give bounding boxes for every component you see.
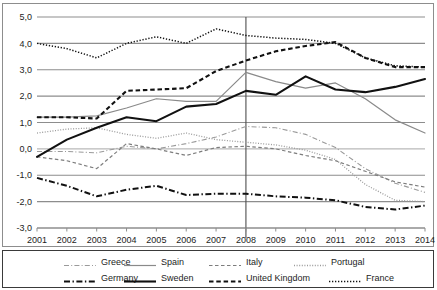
legend-swatch-icon [293, 257, 327, 268]
legend-swatch-icon [123, 273, 157, 284]
x-axis-tick-label: 2004 [117, 235, 137, 245]
x-axis-tick-label: 2007 [206, 235, 226, 245]
legend-item-label: United Kingdom [246, 273, 310, 284]
legend-swatch-icon [328, 273, 362, 284]
series-line-greece [37, 126, 425, 192]
legend-item-sweden[interactable]: Sweden [123, 271, 194, 286]
y-axis-tick-label: 3,0 [19, 65, 32, 75]
x-axis-tick-label: 2009 [266, 235, 286, 245]
series-line-italy [37, 144, 425, 188]
line-chart: 5,04,03,02,01,00,0-1,0-2,0-3,02001200220… [0, 0, 437, 290]
series-line-united-kingdom [37, 42, 425, 118]
x-axis-tick-label: 2013 [385, 235, 405, 245]
series-line-portugal [37, 128, 425, 202]
legend-item-label: Portugal [331, 257, 365, 268]
legend-swatch-icon [208, 273, 242, 284]
x-axis-tick-label: 2003 [87, 235, 107, 245]
legend-row: GreeceSpainItalyPortugal [3, 255, 435, 270]
y-axis-tick-label: 4,0 [19, 39, 32, 49]
y-axis-tick-label: 5,0 [19, 12, 32, 22]
y-axis-tick-label: -3,0 [16, 223, 32, 233]
y-axis-tick-label: 2,0 [19, 91, 32, 101]
y-axis-tick-label: 1,0 [19, 118, 32, 128]
legend-item-label: France [366, 273, 394, 284]
series-line-spain [37, 72, 425, 133]
x-axis-tick-label: 2010 [296, 235, 316, 245]
x-axis-tick-label: 2011 [326, 235, 345, 245]
chart-screenshot: 5,04,03,02,01,00,0-1,0-2,0-3,02001200220… [0, 0, 437, 290]
chart-legend: GreeceSpainItalyPortugal GermanySwedenUn… [2, 250, 434, 288]
legend-swatch-icon [208, 257, 242, 268]
y-axis-tick-label: -1,0 [16, 170, 32, 180]
legend-item-france[interactable]: France [328, 271, 394, 286]
x-axis-tick-label: 2012 [355, 235, 375, 245]
legend-swatch-icon [63, 273, 97, 284]
legend-item-united-kingdom[interactable]: United Kingdom [208, 271, 310, 286]
y-axis-tick-label: 0,0 [19, 144, 32, 154]
legend-item-label: Spain [161, 257, 184, 268]
x-axis-tick-label: 2008 [236, 235, 256, 245]
legend-item-label: Italy [246, 257, 263, 268]
legend-item-spain[interactable]: Spain [123, 255, 184, 270]
legend-item-greece[interactable]: Greece [63, 255, 131, 270]
legend-swatch-icon [123, 257, 157, 268]
x-axis-tick-label: 2006 [176, 235, 196, 245]
series-line-germany [37, 178, 425, 210]
legend-item-label: Sweden [161, 273, 194, 284]
x-axis-tick-label: 2002 [57, 235, 77, 245]
x-axis-tick-label: 2014 [415, 235, 435, 245]
y-axis-tick-label: -2,0 [16, 197, 32, 207]
legend-swatch-icon [63, 257, 97, 268]
series-line-france [37, 29, 425, 67]
legend-item-portugal[interactable]: Portugal [293, 255, 365, 270]
x-axis-tick-label: 2001 [27, 235, 47, 245]
legend-row: GermanySwedenUnited KingdomFrance [3, 271, 435, 286]
x-axis-tick-label: 2005 [146, 235, 166, 245]
legend-item-italy[interactable]: Italy [208, 255, 263, 270]
